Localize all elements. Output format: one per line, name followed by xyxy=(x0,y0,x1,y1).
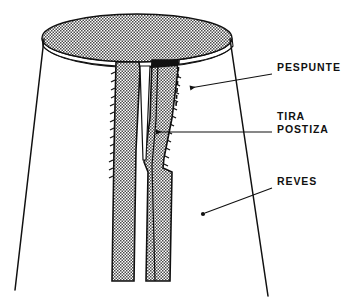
label-tira: TIRA xyxy=(277,110,305,122)
label-postiza: POSTIZA xyxy=(277,123,329,135)
diagram-canvas: PESPUNTE TIRA POSTIZA REVES xyxy=(0,0,344,301)
label-pespunte: PESPUNTE xyxy=(277,61,341,73)
label-reves: REVES xyxy=(277,175,317,187)
top-ellipse xyxy=(42,14,232,62)
leader-reves-dot xyxy=(201,212,205,216)
